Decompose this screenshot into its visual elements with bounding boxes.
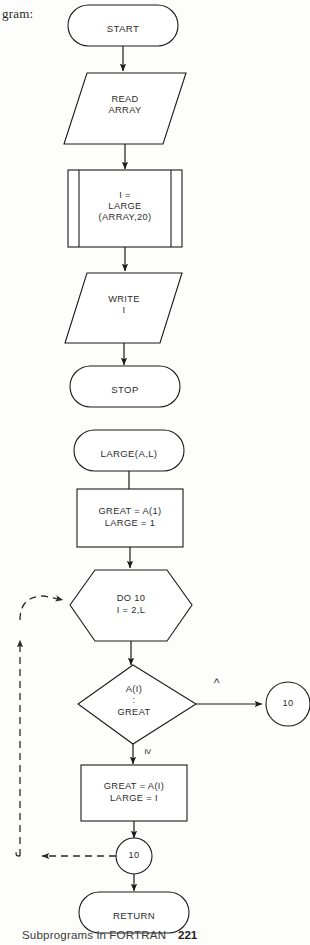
branch-label-less-than: <	[211, 678, 222, 684]
node-do-loop: DO 10 I = 2,L	[70, 570, 192, 641]
page-footer: Subprograms in FORTRAN 221	[0, 929, 310, 945]
footer-chapter-title: Subprograms in FORTRAN	[22, 929, 166, 941]
node-connector-right: 10	[266, 682, 310, 726]
node-connector-bottom: 10	[116, 838, 152, 874]
branch-label-greater-equal: ≥	[143, 749, 154, 755]
node-init: GREAT = A(1) LARGE = 1	[77, 489, 183, 547]
node-large-entry: LARGE(A,L)	[74, 430, 184, 471]
node-connector-right-label: 10	[283, 698, 294, 708]
node-start-label: START	[107, 23, 139, 34]
node-call-line2: LARGE	[108, 201, 141, 211]
node-do-loop-line1: DO 10	[117, 593, 146, 603]
flowchart-diagram: START READ ARRAY I = LARGE (ARRAY,20) WR…	[0, 0, 310, 945]
node-call-line3: (ARRAY,20)	[99, 212, 152, 222]
node-decision-separator: :	[133, 695, 136, 705]
node-stop-label: STOP	[111, 384, 138, 395]
node-call-large: I = LARGE (ARRAY,20)	[68, 170, 182, 247]
node-stop: STOP	[70, 366, 180, 407]
node-init-line1: GREAT = A(1)	[98, 506, 161, 516]
node-connector-bottom-label: 10	[129, 850, 140, 860]
node-decision-line2: GREAT	[117, 707, 150, 717]
node-update: GREAT = A(I) LARGE = I	[81, 765, 187, 821]
edge-loopback-curve-top	[20, 596, 63, 620]
node-write: WRITE I	[65, 273, 182, 343]
node-write-line1: WRITE	[108, 294, 140, 304]
node-call-line1: I =	[119, 190, 131, 200]
node-return-label: RETURN	[113, 910, 155, 921]
node-start: START	[68, 5, 178, 46]
node-update-line2: LARGE = I	[110, 793, 158, 803]
node-init-line2: LARGE = 1	[105, 518, 155, 528]
node-read-line2: ARRAY	[108, 105, 141, 115]
node-read: READ ARRAY	[64, 73, 186, 144]
node-read-line1: READ	[111, 94, 138, 104]
node-large-entry-label: LARGE(A,L)	[101, 448, 158, 459]
footer-page-number: 221	[178, 929, 197, 941]
node-return: RETURN	[79, 892, 189, 933]
node-do-loop-line2: I = 2,L	[117, 605, 146, 615]
node-update-line1: GREAT = A(I)	[104, 781, 164, 791]
node-write-line2: I	[123, 305, 126, 315]
node-decision-line1: A(I)	[126, 684, 142, 694]
node-decision-test: A(I) : GREAT	[78, 665, 196, 744]
